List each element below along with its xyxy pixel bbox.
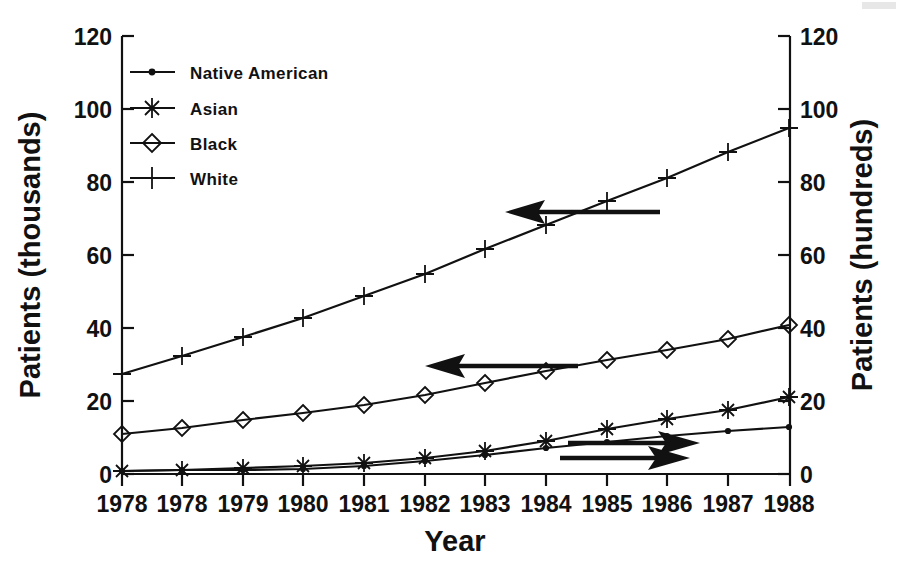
series-white-markers	[113, 119, 798, 383]
right-ytick-40: 40	[800, 316, 826, 342]
legend-label-black: Black	[190, 135, 238, 154]
left-axis-tick-labels: 0 20 40 60 80 100 120	[74, 24, 112, 488]
xtick-label-2: 1979	[217, 491, 268, 517]
xtick-label-1: 1978	[156, 491, 207, 517]
chart-figure: 0 20 40 60 80 100 120 0 20 40 60 80 100 …	[0, 0, 910, 562]
xtick-label-8: 1985	[581, 491, 632, 517]
series-white	[113, 119, 798, 383]
left-ytick-120: 120	[74, 24, 112, 50]
legend-label-white: White	[190, 170, 238, 189]
left-ytick-60: 60	[86, 243, 112, 269]
right-ytick-100: 100	[800, 97, 838, 123]
page-corner-artifact	[862, 2, 896, 9]
legend-label-asian: Asian	[190, 100, 238, 119]
series-native-american	[119, 424, 792, 474]
line-chart: 0 20 40 60 80 100 120 0 20 40 60 80 100 …	[0, 0, 910, 562]
dot-icon	[149, 69, 156, 76]
right-ytick-20: 20	[800, 389, 826, 415]
y2-axis-title: Patients (hundreds)	[846, 119, 878, 391]
plus-icon	[141, 167, 163, 189]
xtick-label-10: 1987	[702, 491, 753, 517]
left-axis-ticks	[122, 36, 134, 474]
annotation-white-axis-arrow	[505, 200, 660, 224]
series-black-line	[122, 325, 789, 434]
xtick-label-9: 1986	[641, 491, 692, 517]
xtick-label-3: 1980	[277, 491, 328, 517]
x-axis-tick-labels: 1978 1978 1979 1980 1981 1982 1983 1984 …	[96, 491, 814, 517]
x-axis-ticks	[122, 474, 790, 486]
xtick-label-11: 1988	[763, 491, 814, 517]
right-axis-tick-labels: 0 20 40 60 80 100 120	[800, 24, 838, 488]
left-ytick-100: 100	[74, 97, 112, 123]
series-white-line	[122, 128, 789, 374]
right-axis-ticks	[778, 36, 790, 474]
series-native-american-markers	[119, 424, 792, 474]
legend-entry-white[interactable]: White	[130, 167, 238, 189]
chart-legend: Native American Asian Black White	[130, 64, 329, 189]
legend-label-native-american: Native American	[190, 64, 329, 83]
left-ytick-0: 0	[99, 462, 112, 488]
xtick-label-7: 1984	[520, 491, 571, 517]
left-ytick-40: 40	[86, 316, 112, 342]
xtick-label-5: 1982	[399, 491, 450, 517]
asterisk-icon	[142, 98, 162, 118]
legend-entry-native-american[interactable]: Native American	[130, 64, 329, 83]
x-axis-title: Year	[424, 525, 485, 557]
left-ytick-80: 80	[86, 170, 112, 196]
left-ytick-20: 20	[86, 389, 112, 415]
legend-entry-black[interactable]: Black	[130, 134, 238, 154]
right-ytick-60: 60	[800, 243, 826, 269]
xtick-label-4: 1981	[338, 491, 389, 517]
xtick-label-0: 1978	[96, 491, 147, 517]
y-axis-title: Patients (thousands)	[14, 112, 46, 399]
legend-entry-asian[interactable]: Asian	[130, 98, 238, 119]
xtick-label-6: 1983	[459, 491, 510, 517]
right-ytick-120: 120	[800, 24, 838, 50]
series-black	[114, 317, 797, 442]
right-ytick-0: 0	[800, 462, 813, 488]
series-native-american-line	[122, 427, 789, 471]
right-ytick-80: 80	[800, 170, 826, 196]
annotation-black-axis-arrow	[425, 354, 578, 378]
